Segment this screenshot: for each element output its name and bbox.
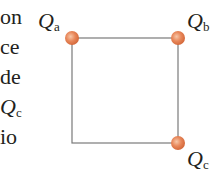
charge-a-icon [65, 31, 79, 45]
label-qa: Qa [38, 10, 60, 38]
square-outline [72, 38, 178, 143]
charge-c-icon [171, 136, 185, 150]
label-qc: Qc [187, 148, 209, 176]
label-qb: Qb [187, 10, 209, 38]
charge-b-icon [171, 31, 185, 45]
